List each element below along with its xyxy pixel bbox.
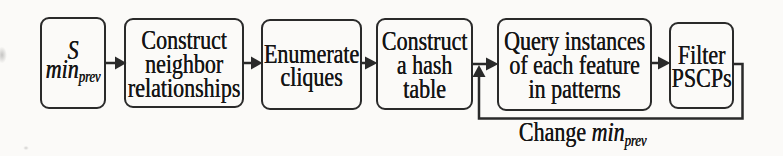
feedback-label-prefix: Change xyxy=(519,116,592,147)
feedback-label-text: Change minprev xyxy=(519,120,647,152)
flow-box-enumerate-cliques: Enumerate cliques xyxy=(261,19,362,110)
feedback-minprev-subscript: prev xyxy=(624,131,646,150)
flow-box-input-s-minprev: S minprev xyxy=(40,17,106,109)
arrow-step4-to-step5 xyxy=(652,57,671,70)
feedback-minprev-word: min xyxy=(591,116,624,147)
box-label: Construct a hash table xyxy=(382,28,468,99)
feedback-change-minprev-label: Change minprev xyxy=(500,121,665,151)
box-label: Query instances of each feature in patte… xyxy=(504,29,645,100)
flow-box-construct-neighbor-relationships: Construct neighbor relationships xyxy=(124,18,244,108)
input-minprev: minprev xyxy=(46,59,101,86)
box-label: Filter PSCPs xyxy=(672,42,732,90)
box-label-line: table xyxy=(382,76,468,100)
box-label-line: relationships xyxy=(128,75,240,99)
box-label-line: PSCPs xyxy=(672,66,732,90)
box-label: Enumerate cliques xyxy=(264,41,359,89)
box-label: Construct neighbor relationships xyxy=(128,27,240,98)
flow-box-filter-pscps: Filter PSCPs xyxy=(669,22,734,109)
flow-box-construct-hash-table: Construct a hash table xyxy=(376,18,473,110)
minprev-subscript: prev xyxy=(79,67,101,86)
flow-box-query-instances: Query instances of each feature in patte… xyxy=(497,18,652,111)
flowchart: S minprev Construct neighbor relationshi… xyxy=(0,0,783,156)
arrow-step1-to-step2 xyxy=(244,57,263,70)
input-box-label: S minprev xyxy=(46,40,101,86)
minprev-word: min xyxy=(46,53,79,84)
arrow-step3-to-step4 xyxy=(473,58,499,71)
